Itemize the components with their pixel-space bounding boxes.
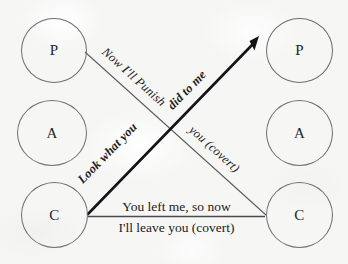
left-parent-circle[interactable]: P — [21, 18, 87, 83]
right-adult-circle[interactable]: A — [266, 100, 333, 166]
right-child-label: C — [294, 208, 304, 223]
arrowhead-icon — [250, 36, 260, 51]
left-adult-circle[interactable]: A — [17, 100, 87, 166]
left-child-circle[interactable]: C — [21, 182, 88, 248]
label-ill-leave-you: I'll leave you (covert) — [88, 220, 265, 236]
right-parent-circle[interactable]: P — [266, 18, 333, 83]
left-parent-label: P — [50, 43, 59, 58]
right-child-circle[interactable]: C — [266, 182, 333, 248]
right-adult-label: A — [294, 126, 305, 141]
left-child-label: C — [49, 208, 59, 223]
diagram-canvas: P A C P A C Now I'll Punish you (covert)… — [0, 0, 348, 264]
right-parent-label: P — [295, 43, 304, 58]
left-adult-label: A — [46, 126, 57, 141]
transaction-line-child-to-parent — [88, 45, 252, 214]
label-you-left-me: You left me, so now — [88, 199, 265, 215]
